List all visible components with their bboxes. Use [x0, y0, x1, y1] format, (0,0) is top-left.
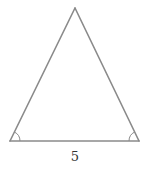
left-side [10, 8, 75, 141]
isosceles-triangle-diagram: 5 [0, 0, 149, 169]
right-side [75, 8, 139, 141]
base-length-label: 5 [71, 149, 79, 164]
angle-arc-right [129, 132, 135, 141]
angle-arc-left [14, 132, 20, 141]
